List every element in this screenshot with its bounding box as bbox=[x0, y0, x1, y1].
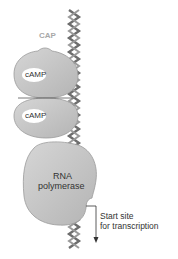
cap-label: CAP bbox=[39, 31, 56, 40]
start-site-label-line1: Start site bbox=[100, 211, 134, 221]
start-site-arrow bbox=[86, 206, 99, 243]
start-site-label-line2: for transcription bbox=[100, 221, 159, 231]
rna-polymerase-label-line1: RNA bbox=[53, 171, 72, 181]
camp-label-top: cAMP bbox=[25, 70, 46, 79]
rna-polymerase-label-line2: polymerase bbox=[38, 181, 85, 191]
camp-label-bottom: cAMP bbox=[25, 111, 46, 120]
